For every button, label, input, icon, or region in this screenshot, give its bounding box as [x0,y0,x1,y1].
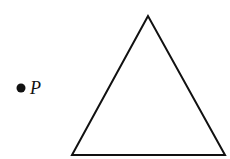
diagram-canvas: P [0,0,230,159]
point-p-label: P [29,78,41,98]
point-p-dot [17,84,26,93]
triangle [72,16,225,155]
